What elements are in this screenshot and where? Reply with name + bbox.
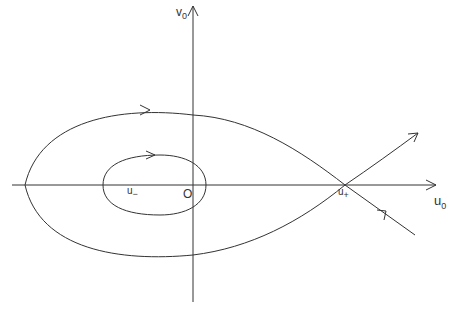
- u-plus-label: u+: [338, 187, 349, 200]
- u-minus-label: u−: [127, 186, 138, 199]
- v-axis-label: v0: [176, 6, 187, 21]
- u-axis-label: u0: [434, 194, 446, 211]
- origin-label: O: [183, 188, 192, 200]
- unstable-manifold: [345, 133, 418, 185]
- phase-portrait: [0, 0, 462, 310]
- homoclinic-direction-arrow-icon: [140, 105, 150, 115]
